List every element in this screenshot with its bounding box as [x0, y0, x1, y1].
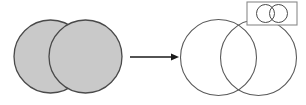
right-filled-circle	[49, 20, 122, 93]
figure-container	[0, 0, 306, 105]
inset-thumbnail	[247, 2, 297, 25]
inset-box	[247, 2, 297, 25]
diagram-canvas	[0, 0, 306, 105]
left-filled-circle-group	[14, 20, 122, 93]
